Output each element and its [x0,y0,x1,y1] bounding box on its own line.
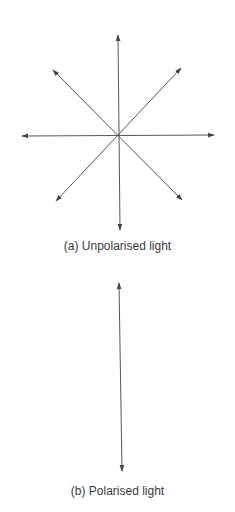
single-vibration-arrow [119,283,122,471]
unpolarised-light-star [22,35,214,230]
polarisation-diagram [0,0,235,512]
polarised-light-arrow [119,283,122,471]
caption-polarised: (b) Polarised light [0,484,235,498]
caption-unpolarised: (a) Unpolarised light [0,239,235,253]
